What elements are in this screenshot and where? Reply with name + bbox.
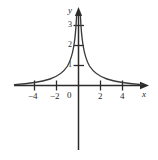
y-tick-label-1: 1 (68, 61, 72, 69)
y-tick-label-2: 2 (68, 41, 72, 49)
x-axis-label: x (142, 90, 146, 99)
origin-label: 0 (67, 91, 72, 100)
y-axis-label: y (68, 6, 72, 15)
curve-right-branch (80, 16, 142, 85)
y-tick-label-3: 3 (68, 21, 72, 29)
y-axis-arrowhead (75, 7, 82, 16)
coordinate-plot (0, 0, 158, 160)
x-tick-label-4: 4 (120, 92, 125, 101)
graph-figure: −4 −2 0 2 4 1 2 3 x y (0, 0, 158, 160)
x-tick-label-2: 2 (98, 92, 103, 101)
x-tick-label-minus4: −4 (28, 92, 38, 101)
x-tick-label-minus2: −2 (50, 92, 60, 101)
